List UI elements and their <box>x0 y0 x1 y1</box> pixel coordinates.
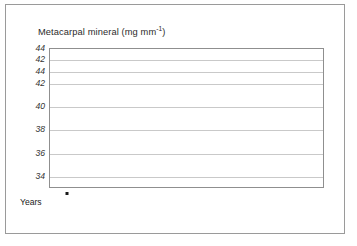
gridline <box>50 72 323 73</box>
gridline <box>50 84 323 85</box>
gridline <box>50 60 323 61</box>
y-tick-label: 44 <box>21 44 45 53</box>
y-tick-label: 42 <box>21 55 45 64</box>
gridline <box>50 177 323 178</box>
y-axis: 4442444240383634 <box>17 48 45 188</box>
y-tick-label: 36 <box>21 149 45 158</box>
y-tick-label: 38 <box>21 125 45 134</box>
gridline <box>50 107 323 108</box>
plot-area <box>49 48 324 188</box>
series-lines <box>50 49 324 188</box>
chart-title: Metacarpal mineral (mg mm-1) <box>38 27 166 37</box>
figure-frame: Metacarpal mineral (mg mm-1) 44424442403… <box>5 4 345 234</box>
x-axis <box>49 188 324 214</box>
x-axis-name: Years <box>20 198 42 207</box>
y-tick-label: 42 <box>21 79 45 88</box>
y-tick-label: 34 <box>21 172 45 181</box>
gridline <box>50 130 323 131</box>
chart-title-text: Metacarpal mineral (mg mm <box>38 27 156 37</box>
y-tick-label: 44 <box>21 67 45 76</box>
y-tick-label: 40 <box>21 102 45 111</box>
metacarpal-mineral-chart: Metacarpal mineral (mg mm-1) 44424442403… <box>6 5 346 235</box>
x-tick-marker <box>65 192 68 195</box>
gridline <box>50 154 323 155</box>
chart-title-paren: ) <box>162 27 165 37</box>
